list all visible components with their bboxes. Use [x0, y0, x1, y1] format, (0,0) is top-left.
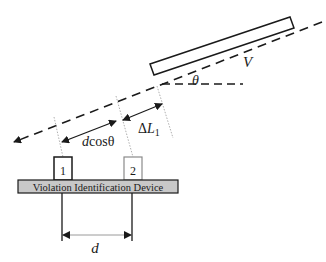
delta-l1-arrow — [123, 104, 162, 120]
guide-line-sensor1 — [54, 117, 63, 157]
guide-line-sensor2 — [116, 96, 133, 157]
sensor-1: 1 — [54, 157, 72, 180]
device-label: Violation Identification Device — [33, 182, 164, 193]
sensor-2-label: 2 — [130, 164, 136, 178]
sensor-2: 2 — [124, 157, 142, 180]
trajectory-line — [14, 22, 322, 142]
delta-l1-label: ΔL1 — [138, 121, 160, 138]
spacing-label: d — [91, 240, 99, 256]
vehicle-body — [150, 17, 294, 75]
violation-identification-device: Violation Identification Device — [18, 180, 178, 193]
velocity-label: V — [243, 54, 254, 70]
dcos-label: dcosθ — [82, 134, 115, 149]
sensor-1-label: 1 — [60, 164, 66, 178]
angle-label: θ — [192, 73, 199, 88]
diagram-canvas: θ V dcosθ ΔL1 1 2 Violation Identificati… — [0, 0, 326, 262]
